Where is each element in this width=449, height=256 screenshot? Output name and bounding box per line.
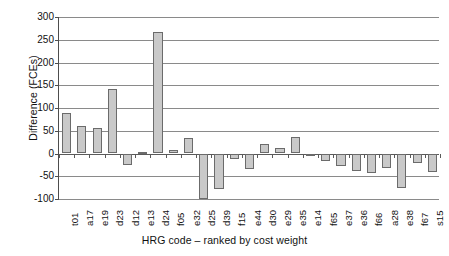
bars-layer	[59, 17, 439, 199]
y-axis-tick-label: 0	[24, 149, 54, 159]
x-axis-tick-label: e36	[359, 210, 369, 226]
x-axis-tick-labels: t01a17e19d23d12e13d24f05e32d25d39f15e44d…	[58, 200, 439, 228]
bar-e37	[336, 154, 345, 166]
bar-f67	[413, 154, 422, 163]
x-axis-tick-label: d23	[115, 210, 125, 226]
y-axis-tick-label: 100	[24, 103, 54, 113]
y-axis-tick-label: 150	[24, 80, 54, 90]
bar-f65	[321, 154, 330, 162]
x-axis-tickmark	[166, 154, 167, 158]
bar-d12	[123, 154, 132, 166]
x-axis-tickmark	[135, 154, 136, 158]
x-axis-title: HRG code – ranked by cost weight	[0, 234, 449, 246]
bar-f66	[367, 154, 376, 173]
x-axis-tick-label: t01	[70, 212, 80, 226]
x-axis-tick-label: f66	[374, 212, 384, 226]
x-axis-tick-label: e19	[100, 210, 110, 226]
bar-f15	[230, 154, 239, 159]
x-axis-tick-label: f67	[420, 212, 430, 226]
bar-e32	[184, 138, 193, 153]
x-axis-tickmark	[333, 154, 334, 158]
x-axis-tickmark	[211, 154, 212, 158]
plot-area	[58, 17, 439, 199]
bar-chart-figure: Difference (FCEs) 300250200150100500-50-…	[0, 0, 449, 256]
bar-d30	[260, 144, 269, 153]
x-axis-tick-label: e38	[405, 210, 415, 226]
x-axis-tick-label: f15	[237, 212, 247, 226]
bar-e38	[397, 154, 406, 188]
y-axis-tick-label: 200	[24, 58, 54, 68]
bar-e44	[245, 154, 254, 170]
bar-d24	[153, 32, 162, 153]
bar-e19	[93, 128, 102, 153]
bar-e13	[138, 152, 147, 154]
bar-a17	[77, 126, 86, 154]
x-axis-tick-label: s15	[435, 210, 445, 226]
x-axis-tick-label: d24	[161, 210, 171, 226]
x-axis-tickmark	[349, 154, 350, 158]
bar-e14	[306, 154, 315, 156]
x-axis-tickmark	[364, 154, 365, 158]
x-axis-tickmark	[288, 154, 289, 158]
x-axis-tick-label: e32	[192, 210, 202, 226]
x-axis-tick-label: d39	[222, 210, 232, 226]
x-axis-tickmark	[379, 154, 380, 158]
x-axis-tickmark	[59, 154, 60, 158]
x-axis-tick-label: e37	[344, 210, 354, 226]
x-axis-tick-label: d30	[268, 210, 278, 226]
y-axis-tick-labels: 300250200150100500-50-100	[24, 15, 54, 199]
bar-e29	[275, 148, 284, 153]
x-axis-tickmark	[242, 154, 243, 158]
x-axis-tickmark	[272, 154, 273, 158]
bar-f05	[169, 150, 178, 154]
x-axis-tick-label: e14	[313, 210, 323, 226]
x-axis-tickmark	[196, 154, 197, 158]
x-axis-tickmark	[227, 154, 228, 158]
bar-d39	[214, 154, 223, 189]
x-axis-tickmark	[89, 154, 90, 158]
bar-s15	[428, 154, 437, 173]
x-axis-tickmark	[120, 154, 121, 158]
x-axis-tickmark	[303, 154, 304, 158]
x-axis-tick-label: a17	[85, 210, 95, 226]
x-axis-tickmark	[257, 154, 258, 158]
x-axis-tick-label: e29	[283, 210, 293, 226]
x-axis-tick-label: f05	[176, 212, 186, 226]
x-axis-tickmark	[150, 154, 151, 158]
x-axis-tick-label: e44	[253, 210, 263, 226]
y-axis-tick-label: -50	[24, 171, 54, 181]
bar-e36	[352, 154, 361, 171]
x-axis-tickmark	[181, 154, 182, 158]
x-axis-tick-label: e35	[298, 210, 308, 226]
y-axis-tick-label: -100	[24, 194, 54, 204]
y-axis-tick-label: 300	[24, 12, 54, 22]
x-axis-tickmark	[410, 154, 411, 158]
x-axis-tickmark	[440, 154, 441, 158]
x-axis-tickmark	[105, 154, 106, 158]
y-axis-tick-label: 250	[24, 35, 54, 45]
x-axis-tick-label: a28	[390, 210, 400, 226]
bar-d25	[199, 154, 208, 200]
bar-t01	[62, 113, 71, 153]
bar-e35	[291, 137, 300, 153]
x-axis-tick-label: f65	[329, 212, 339, 226]
x-axis-tick-label: d25	[207, 210, 217, 226]
x-axis-tickmark	[74, 154, 75, 158]
y-axis-tick-label: 50	[24, 126, 54, 136]
x-axis-tickmark	[394, 154, 395, 158]
x-axis-tick-label: e13	[146, 210, 156, 226]
bar-a28	[382, 154, 391, 168]
bar-d23	[108, 89, 117, 153]
x-axis-tickmark	[425, 154, 426, 158]
x-axis-tickmark	[318, 154, 319, 158]
x-axis-tick-label: d12	[131, 210, 141, 226]
